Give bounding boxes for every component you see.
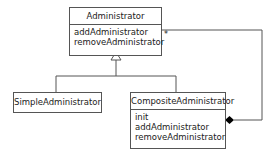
operation: addAdministrator (74, 27, 157, 37)
operation: removeAdministrator (74, 37, 157, 47)
class-administrator: Administrator addAdministrator removeAdm… (69, 7, 162, 56)
class-simple-administrator: SimpleAdministrator (13, 92, 102, 113)
class-composite-administrator: CompositeAdministrator init addAdministr… (130, 92, 226, 149)
class-name: SimpleAdministrator (14, 93, 101, 112)
operations: init addAdministrator removeAdministrato… (131, 110, 225, 144)
operation: init (135, 112, 221, 122)
operations: addAdministrator removeAdministrator (70, 25, 161, 49)
composition-diamond-icon (225, 116, 234, 124)
class-name: CompositeAdministrator (131, 93, 225, 110)
operation: addAdministrator (135, 122, 221, 132)
multiplicity-label: * (164, 30, 168, 39)
operation: removeAdministrator (135, 132, 221, 142)
class-name: Administrator (70, 8, 161, 25)
